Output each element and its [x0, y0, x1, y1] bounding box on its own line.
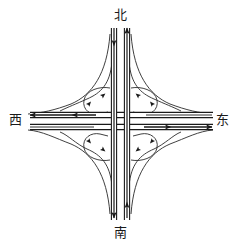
ramp-arrow-ne-2 [150, 101, 155, 106]
ramp-arrow-sw-2 [86, 138, 91, 143]
ramp-arrow-se-2 [150, 138, 155, 143]
direction-label-south: 南 [0, 226, 240, 239]
directional-ramp-ne-inner [129, 62, 181, 111]
directional-ramp-se-inner [129, 132, 181, 186]
ramp-arrow-nw-2 [86, 101, 91, 106]
east-west-freeway [30, 112, 213, 130]
ramp-arrow-se-1 [136, 147, 141, 152]
interchange-figure: 北 南 西 东 [0, 0, 240, 250]
loop-ramp-nw [84, 88, 110, 115]
directional-ramp-sw-outer [28, 130, 110, 214]
loop-ramp-se [131, 134, 157, 161]
directional-ramp-se-outer [131, 130, 213, 214]
ramp-arrow-sw-1 [100, 147, 105, 152]
directional-ramp-nw-inner [60, 62, 112, 111]
interchange-diagram-svg [0, 0, 240, 250]
directional-ramp-sw-inner [60, 132, 112, 186]
direction-label-west: 西 [9, 113, 22, 126]
direction-label-north: 北 [0, 8, 240, 21]
directional-ramp-ne-outer [131, 34, 213, 114]
ramp-arrow-nw-1 [100, 93, 105, 98]
loop-ramp-ne [131, 88, 157, 115]
loop-ramp-sw [84, 134, 110, 161]
directional-ramp-nw-outer [28, 34, 110, 114]
direction-label-east: 东 [216, 113, 229, 126]
ramp-arrow-ne-1 [136, 93, 141, 98]
